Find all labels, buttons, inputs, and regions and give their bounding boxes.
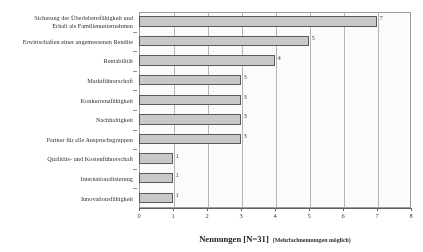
category-label: Qualitäts- und Kostenführerschaft	[1, 155, 133, 162]
category-label: Innovationsfähigkeit	[1, 195, 133, 202]
bar	[139, 134, 241, 145]
bar	[139, 193, 173, 204]
bar	[139, 55, 275, 66]
bar-value-label: 3	[244, 93, 247, 100]
category-label: Marktführerschaft	[1, 77, 133, 84]
x-axis-tick-label: 6	[341, 212, 344, 219]
category-label: Erwirtschaften einer angemessenen Rendit…	[1, 38, 133, 45]
x-axis-tick	[139, 208, 140, 211]
x-axis-tick	[343, 208, 344, 211]
bar-value-label: 7	[380, 14, 383, 21]
bar-row: 5	[139, 32, 411, 52]
bar-value-label: 1	[176, 191, 179, 198]
category-label: Konkurrenzfähigkeit	[1, 97, 133, 104]
category-label: Sicherung der Überlebensfähigkeit und Er…	[1, 14, 133, 29]
bar	[139, 36, 309, 47]
x-axis-tick-label: 5	[307, 212, 310, 219]
x-axis-tick-label: 8	[409, 212, 412, 219]
x-axis-tick	[207, 208, 208, 211]
category-tick	[133, 51, 137, 52]
bar-value-label: 3	[244, 132, 247, 139]
category-tick	[133, 32, 137, 33]
bar-row: 1	[139, 188, 411, 208]
bar-value-label: 3	[244, 112, 247, 119]
category-tick	[133, 188, 137, 189]
x-axis-title-main: Nennungen [N=31]	[199, 234, 269, 244]
bar	[139, 153, 173, 164]
category-label: Internationalisierung	[1, 175, 133, 182]
x-axis-tick	[173, 208, 174, 211]
bar-value-label: 1	[176, 171, 179, 178]
x-axis-title-note: (Mehrfachnennungen möglich)	[273, 237, 351, 243]
category-tick	[133, 149, 137, 150]
x-axis-title: Nennungen [N=31] (Mehrfachnennungen mögl…	[139, 228, 411, 246]
category-tick	[133, 169, 137, 170]
category-label: Partner für alle Anspruchsgruppen	[1, 136, 133, 143]
x-axis-tick-label: 7	[375, 212, 378, 219]
x-axis-tick	[241, 208, 242, 211]
bar-value-label: 4	[278, 54, 281, 61]
bar-value-label: 5	[312, 34, 315, 41]
bar-row: 4	[139, 51, 411, 71]
x-axis-tick-label: 4	[273, 212, 276, 219]
bar-value-label: 3	[244, 73, 247, 80]
category-label: Nachhaltigkeit	[1, 116, 133, 123]
bar-row: 3	[139, 71, 411, 91]
x-axis-tick-label: 3	[239, 212, 242, 219]
category-label: Rentabilität	[1, 57, 133, 64]
category-tick	[133, 71, 137, 72]
bar-row: 1	[139, 169, 411, 189]
bar-row: 3	[139, 110, 411, 130]
bar-value-label: 1	[176, 152, 179, 159]
bar	[139, 16, 377, 27]
bar-row: 3	[139, 90, 411, 110]
x-axis-tick	[309, 208, 310, 211]
bar-series: 7543333111	[139, 12, 411, 208]
bar-chart-figure: Wichtige Unternehmensziele Sicherung der…	[0, 0, 423, 252]
bar-row: 3	[139, 130, 411, 150]
bar	[139, 114, 241, 125]
x-axis-tick-label: 2	[205, 212, 208, 219]
bar	[139, 95, 241, 106]
category-axis-labels: Sicherung der Überlebensfähigkeit und Er…	[0, 12, 136, 208]
x-axis-tick	[411, 208, 412, 211]
x-axis-tick-label: 1	[171, 212, 174, 219]
bar	[139, 173, 173, 184]
bar	[139, 75, 241, 86]
bar-row: 7	[139, 12, 411, 32]
bar-row: 1	[139, 149, 411, 169]
x-axis-tick-label: 0	[137, 212, 140, 219]
x-axis-tick	[377, 208, 378, 211]
category-tick	[133, 90, 137, 91]
category-tick	[133, 110, 137, 111]
x-axis-tick	[275, 208, 276, 211]
category-tick	[133, 130, 137, 131]
